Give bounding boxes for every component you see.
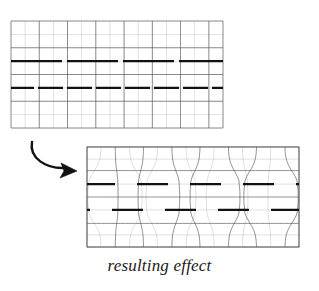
figure-caption: resulting effect [0, 256, 319, 276]
figure-canvas [0, 0, 319, 291]
